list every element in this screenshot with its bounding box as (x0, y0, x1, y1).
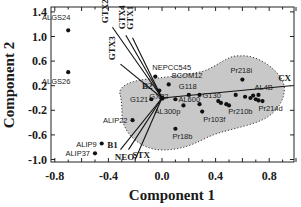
vector-label-b2: B2 (142, 81, 153, 91)
vector-label-gtx2: GTX2 (100, 0, 110, 23)
data-point (173, 97, 177, 101)
point-label: Pr18b (172, 132, 192, 141)
origin-point (159, 95, 164, 100)
point-label: ALIP37 (65, 149, 90, 158)
data-point (251, 93, 255, 97)
data-point (66, 28, 70, 32)
point-label: ALIP9 (76, 140, 96, 149)
x-tick-label: 0.4 (208, 169, 223, 183)
data-point (200, 109, 204, 113)
data-point (219, 101, 223, 105)
data-point (100, 141, 104, 145)
point-label: G121 (130, 95, 148, 104)
point-label: G130 (203, 91, 221, 100)
y-axis-title: Component 2 (1, 42, 17, 128)
data-point (227, 103, 231, 107)
data-point (149, 97, 153, 101)
data-point (173, 127, 177, 131)
point-label: AL300p (155, 107, 181, 116)
x-tick-label: -0.4 (99, 169, 118, 183)
vector-label-b1: B1 (107, 140, 118, 150)
x-tick-label: 0.8 (262, 169, 277, 183)
vector-label-stx: STX (132, 150, 150, 160)
data-point (243, 95, 247, 99)
vector-label-neo: NEO (115, 152, 135, 162)
x-axis-title: Component 1 (129, 187, 215, 203)
point-label: Pr103f (203, 115, 226, 124)
biplot-chart: -0.8-0.40.00.40.8 1.41.00.60.2-0.2-0.6-1… (0, 0, 301, 207)
point-label: G118 (179, 82, 197, 91)
point-label: ALIP22 (103, 116, 128, 125)
point-label: BCOM12 (172, 71, 203, 80)
data-point (66, 70, 70, 74)
y-tick-label: -0.6 (28, 128, 47, 142)
data-point (240, 77, 244, 81)
y-tick-label: 1.0 (32, 30, 47, 44)
data-point (256, 93, 260, 97)
data-point (256, 98, 260, 102)
vector-label-cx: CX (278, 73, 291, 83)
data-point (181, 103, 185, 107)
x-tick-label: -0.8 (45, 169, 64, 183)
x-tick-label: 0.0 (155, 169, 170, 183)
y-tick-label: -1.0 (28, 153, 47, 167)
data-point (197, 102, 201, 106)
vector-label-gtx1: GTX1 (125, 5, 135, 30)
data-point (167, 82, 171, 86)
data-point (153, 74, 157, 78)
data-point (197, 93, 201, 97)
data-point (260, 99, 264, 103)
vector-label-gtx3: GTX3 (107, 36, 117, 61)
data-point (234, 93, 238, 97)
point-label: Pr214d (259, 104, 283, 113)
point-label: Pr218i (230, 66, 252, 75)
point-label: AL4B (254, 83, 272, 92)
data-point (130, 118, 134, 122)
data-point (93, 151, 97, 155)
point-label: AL600 (178, 95, 200, 104)
point-label: Pr210b (228, 107, 252, 116)
x-tick-labels: -0.8-0.40.00.40.8 (45, 169, 276, 183)
point-label: ALGS26 (42, 77, 70, 86)
point-label: ALGS24 (42, 13, 70, 22)
y-tick-label: -0.2 (28, 103, 47, 117)
y-tick-label: 0.6 (32, 54, 47, 68)
